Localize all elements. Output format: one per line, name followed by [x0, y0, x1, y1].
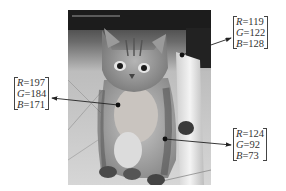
left-bracket: [233, 16, 237, 49]
g-value-row: G=92: [236, 139, 264, 150]
left-bracket: [14, 77, 18, 110]
rgb-callout-left: R=197 G=184 B=171: [14, 77, 49, 110]
right-bracket: [45, 77, 49, 110]
r-value-row: R=119: [236, 16, 265, 27]
r-value-row: R=124: [236, 128, 264, 139]
left-bracket: [233, 128, 237, 161]
g-value-row: G=122: [236, 27, 265, 38]
rgb-callout-bottom-right: R=124 G=92 B=73: [233, 128, 267, 161]
right-bracket: [263, 128, 267, 161]
b-value-row: B=73: [236, 150, 264, 161]
cat-photo: [68, 10, 211, 185]
rgb-callout-top-right: R=119 G=122 B=128: [233, 16, 268, 49]
right-bracket: [264, 16, 268, 49]
b-value-row: B=128: [236, 38, 265, 49]
r-value-row: R=197: [17, 77, 46, 88]
rgb-annotation-figure: R=119 G=122 B=128 R=197 G=184 B=171 R=12…: [0, 0, 286, 191]
b-value-row: B=171: [17, 99, 46, 110]
g-value-row: G=184: [17, 88, 46, 99]
